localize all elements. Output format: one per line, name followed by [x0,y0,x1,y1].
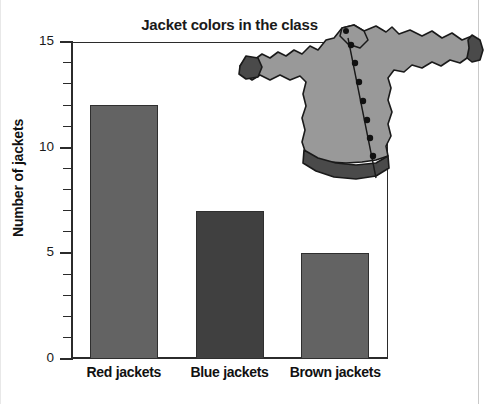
bar-blue-jackets[interactable] [196,211,264,359]
bar-red-jackets[interactable] [90,105,158,359]
y-tick-minor [63,168,73,169]
y-tick-major [60,41,73,43]
y-tick-minor [63,126,73,127]
y-tick-label: 10 [14,139,54,154]
y-axis-title: Number of jackets [10,98,26,258]
y-tick-major [60,252,73,254]
x-tick-label: Brown jackets [282,364,388,380]
y-tick-minor [63,231,73,232]
x-tick-label: Red jackets [71,364,177,380]
chart-title: Jacket colors in the class [71,16,388,33]
y-tick-minor [63,83,73,84]
y-tick-major [60,147,73,149]
y-tick-minor [63,189,73,190]
y-tick-label: 15 [14,33,54,48]
y-tick-major [60,358,73,360]
x-tick-label: Blue jackets [177,364,283,380]
y-tick-minor [63,210,73,211]
y-tick-minor [63,274,73,275]
y-tick-label: 5 [14,244,54,259]
y-tick-minor [63,337,73,338]
chart-page: Jacket colors in the class Number of jac… [0,0,493,404]
y-tick-minor [63,295,73,296]
jacket-cuff-right [467,35,483,62]
bar-brown-jackets[interactable] [301,253,369,359]
bar-chart: Jacket colors in the class Number of jac… [0,0,493,404]
y-tick-minor [63,316,73,317]
y-tick-label: 0 [14,350,54,365]
y-tick-minor [63,62,73,63]
y-tick-minor [63,105,73,106]
